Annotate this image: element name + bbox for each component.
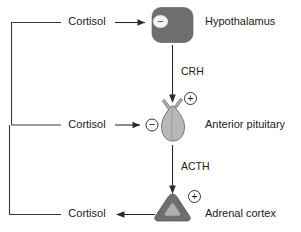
cortisol-label-output: Cortisol xyxy=(68,207,105,219)
hpa-axis-diagram: Cortisol − Hypothalamus CRH Cortisol − xyxy=(0,0,301,232)
feedback-path-adrenal-output xyxy=(10,125,62,215)
crh-arrow xyxy=(169,45,176,103)
adrenal-cortex-label: Adrenal cortex xyxy=(205,207,276,219)
adrenal-cortex-node xyxy=(155,194,190,221)
pituitary-minus-sign: − xyxy=(149,118,155,130)
acth-arrow xyxy=(169,145,176,194)
pituitary-stimulation-badge: + xyxy=(185,92,197,105)
anterior-pituitary-label: Anterior pituitary xyxy=(205,118,286,130)
feedback-rail-inner xyxy=(12,23,62,126)
pituitary-body xyxy=(162,106,185,141)
acth-label: ACTH xyxy=(181,160,210,172)
pituitary-plus-sign: + xyxy=(187,92,193,104)
cortisol-label-pituitary: Cortisol xyxy=(68,118,105,130)
cortisol-label-hypothalamus: Cortisol xyxy=(68,15,105,27)
hypothalamus-node: − xyxy=(152,8,193,43)
arrow-cortisol-to-pituitary xyxy=(115,122,140,129)
arrow-adrenal-to-cortisol xyxy=(116,211,155,218)
pituitary-inhibition-badge: − xyxy=(146,118,158,131)
hypothalamus-label: Hypothalamus xyxy=(205,15,276,27)
crh-label: CRH xyxy=(181,65,204,77)
hypothalamus-minus-sign: − xyxy=(157,15,163,27)
anterior-pituitary-node xyxy=(162,99,185,142)
adrenal-plus-sign: + xyxy=(191,190,197,202)
feedback-rail-outer xyxy=(10,125,62,215)
feedback-path-hypothalamus xyxy=(12,23,62,126)
diagram-canvas: Cortisol − Hypothalamus CRH Cortisol − xyxy=(0,0,301,232)
arrow-cortisol-to-hypothalamus xyxy=(115,19,145,26)
adrenal-stimulation-badge: + xyxy=(189,190,201,203)
